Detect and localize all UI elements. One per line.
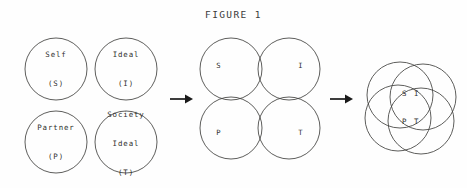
arrow-right-icon-one xyxy=(170,95,193,104)
stage-full-overlap-circles xyxy=(365,62,456,154)
circle-ideal[interactable] xyxy=(95,38,157,100)
circle-p[interactable] xyxy=(200,97,262,159)
circle-i[interactable] xyxy=(258,38,320,100)
circle-partner[interactable] xyxy=(25,111,87,173)
figure-container: FIGURE 1 xyxy=(0,0,467,188)
circle-society-ideal[interactable] xyxy=(95,111,157,173)
arrow-head xyxy=(345,95,353,104)
circle-s[interactable] xyxy=(200,38,262,100)
circle-self[interactable] xyxy=(25,38,87,100)
arrow-right-icon-two xyxy=(330,95,353,104)
diagram-canvas xyxy=(0,0,467,188)
circle-t[interactable] xyxy=(258,97,320,159)
stage-separate-circles xyxy=(25,38,157,173)
arrow-head xyxy=(185,95,193,104)
stage-partial-overlap-circles xyxy=(200,38,320,159)
